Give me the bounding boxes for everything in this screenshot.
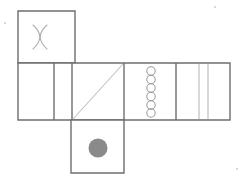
speck-bottom-right	[236, 168, 238, 170]
speck-top-right	[214, 6, 216, 8]
speck-top-left	[4, 22, 6, 24]
cube-net-figure	[0, 0, 248, 180]
filled-dot-icon	[89, 139, 108, 158]
top-face-outline	[18, 11, 75, 63]
cube-net-svg	[0, 0, 248, 180]
